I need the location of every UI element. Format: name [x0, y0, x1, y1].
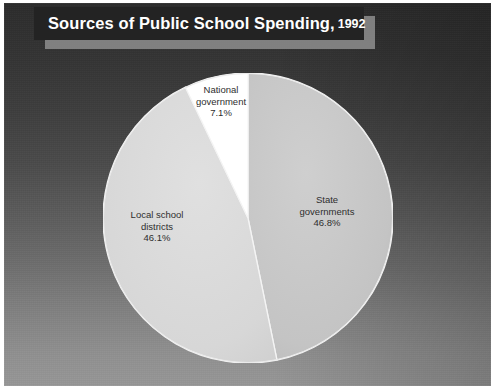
label-line-2: government [184, 96, 258, 108]
pie-label-local-school-districts: Local school districts 46.1% [114, 209, 200, 244]
label-percent: 7.1% [184, 107, 258, 119]
label-line-1: State [287, 194, 367, 206]
pie-label-national-government: National government 7.1% [184, 84, 258, 119]
label-percent: 46.8% [287, 217, 367, 229]
label-line-2: districts [114, 221, 200, 233]
label-line-2: governments [287, 206, 367, 218]
chart-screenshot: Sources of Public School Spending, 1992 [0, 0, 498, 392]
label-percent: 46.1% [114, 232, 200, 244]
page-title: Sources of Public School Spending, [48, 14, 335, 33]
label-line-1: National [184, 84, 258, 96]
title-banner: Sources of Public School Spending, 1992 [34, 7, 364, 40]
title-year: 1992 [338, 17, 366, 31]
pie-label-state-governments: State governments 46.8% [287, 194, 367, 229]
label-line-1: Local school [114, 209, 200, 221]
